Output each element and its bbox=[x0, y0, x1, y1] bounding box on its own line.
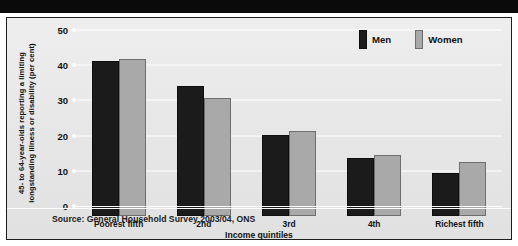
y-tick-label-10: 10 bbox=[57, 165, 68, 176]
bar-group bbox=[76, 34, 161, 216]
chart-frame: 45- to 64-year-olds reporting a limiting… bbox=[6, 17, 512, 240]
legend-item-women: Women bbox=[415, 30, 462, 49]
top-black-band bbox=[0, 0, 518, 13]
bar-group bbox=[161, 34, 246, 216]
legend-swatch-women-icon bbox=[415, 30, 423, 49]
y-tick-label-0: 0 bbox=[63, 201, 68, 212]
plot-area: 01020304050 Poorest fifth2nd3rd4thRiches… bbox=[52, 24, 502, 216]
chart-figure: 45- to 64-year-olds reporting a limiting… bbox=[0, 0, 518, 246]
source-divider bbox=[7, 208, 511, 209]
x-axis-title: Income quintiles bbox=[7, 230, 511, 240]
bar-group bbox=[246, 34, 331, 216]
y-axis-title: 45- to 64-year-olds reporting a limiting… bbox=[11, 24, 41, 222]
bar-women[interactable] bbox=[289, 131, 316, 216]
y-tick-dot-40 bbox=[72, 63, 76, 67]
y-tick-label-20: 20 bbox=[57, 130, 68, 141]
chart-panel: 45- to 64-year-olds reporting a limiting… bbox=[7, 18, 511, 239]
x-tick-label: 3rd bbox=[282, 219, 295, 229]
y-tick-label-40: 40 bbox=[57, 60, 68, 71]
bar-men[interactable] bbox=[432, 173, 459, 216]
y-tick-label-30: 30 bbox=[57, 95, 68, 106]
bar-men[interactable] bbox=[177, 86, 204, 216]
y-tick-dot-30 bbox=[72, 98, 76, 102]
y-tick-dot-10 bbox=[72, 169, 76, 173]
bar-group bbox=[332, 34, 417, 216]
y-axis-title-line-1: 45- to 64-year-olds reporting a limiting bbox=[17, 43, 27, 202]
bar-group bbox=[417, 34, 502, 216]
legend-label-women: Women bbox=[428, 34, 462, 45]
y-axis-tick-labels: 01020304050 bbox=[52, 24, 68, 216]
legend-swatch-men-icon bbox=[359, 30, 367, 49]
bar-men[interactable] bbox=[262, 135, 289, 216]
y-tick-dot-20 bbox=[72, 134, 76, 138]
axis-baseline bbox=[76, 206, 502, 207]
bar-women[interactable] bbox=[119, 59, 146, 216]
chart-legend: Men Women bbox=[359, 30, 463, 49]
x-tick-label: Richest fifth bbox=[435, 219, 483, 229]
legend-item-men: Men bbox=[359, 30, 391, 49]
legend-label-men: Men bbox=[372, 34, 391, 45]
x-tick-label: 4th bbox=[368, 219, 381, 229]
bar-groups: Poorest fifth2nd3rd4thRichest fifth bbox=[76, 24, 502, 216]
bar-women[interactable] bbox=[204, 98, 231, 216]
y-axis-title-line-2: longstanding illness or disability (per … bbox=[26, 43, 36, 202]
source-note: Source: General Household Survey 2003/04… bbox=[52, 214, 255, 224]
y-tick-dot-50 bbox=[72, 28, 76, 32]
y-tick-label-50: 50 bbox=[57, 25, 68, 36]
bar-men[interactable] bbox=[92, 61, 119, 216]
